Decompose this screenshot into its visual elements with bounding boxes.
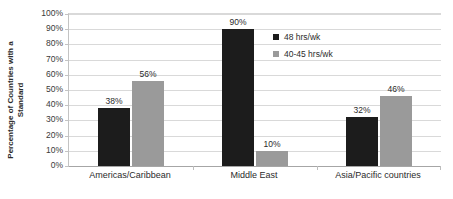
y-axis-tick-label: 20% [46,130,63,139]
bar-value-label: 32% [353,105,370,115]
legend-swatch-icon-dark [273,34,279,40]
y-axis-tickmark [65,90,69,91]
bar [380,96,412,166]
y-axis-tickmark [65,166,69,167]
y-axis-tick-label: 90% [46,24,63,33]
y-axis-tick-label: 60% [46,69,63,78]
y-axis-tick-label: 70% [46,54,63,63]
y-axis-tickmark [65,29,69,30]
legend-label-48-hrs: 48 hrs/wk [284,32,320,42]
bar [256,151,288,166]
bar-value-label: 38% [105,96,122,106]
bar-chart: Percentage of Countries with a Standard … [0,0,453,199]
bar [346,117,378,166]
y-axis-tick-label: 100% [41,9,63,18]
y-axis-tick-label: 40% [46,100,63,109]
bar [132,81,164,166]
gridline [69,14,441,15]
y-axis-title: Percentage of Countries with a Standard [0,0,32,199]
plot-area: 38%56%90%10%32%46% [68,13,441,166]
y-axis-tick-labels: 100%90%80%70%60%50%40%30%20%10%0% [30,13,66,165]
gridline [69,90,441,91]
bar [222,29,254,166]
x-axis-line [69,166,441,167]
x-axis-category-label: Asia/Pacific countries [335,170,421,181]
y-axis-tickmark [65,151,69,152]
bar-value-label: 90% [229,17,246,27]
y-axis-tickmark [65,75,69,76]
x-axis-category-labels: Americas/CaribbeanMiddle EastAsia/Pacifi… [68,170,440,190]
y-axis-tickmark [65,44,69,45]
legend-item-40-45-hrs[interactable]: 40-45 hrs/wk [273,45,385,62]
legend-label-40-45-hrs: 40-45 hrs/wk [284,49,333,59]
y-axis-tickmark [65,120,69,121]
y-axis-tick-label: 10% [46,145,63,154]
y-axis-tickmark [65,14,69,15]
x-axis-category-label: Americas/Caribbean [89,170,171,181]
y-axis-tick-label: 80% [46,39,63,48]
gridline [69,44,441,45]
y-axis-title-line-2: Standard [16,41,26,158]
y-axis-tickmark [65,136,69,137]
bar-value-label: 10% [263,139,280,149]
bar [98,108,130,166]
bar-value-label: 46% [387,84,404,94]
y-axis-tick-label: 0% [51,161,63,170]
x-axis-end-tick [440,166,441,170]
y-axis-tickmark [65,105,69,106]
gridline [69,60,441,61]
x-axis-category-label: Middle East [230,170,277,181]
legend-swatch-icon-light [273,51,279,57]
gridline [69,29,441,30]
y-axis-tickmark [65,60,69,61]
y-axis-tick-label: 30% [46,115,63,124]
legend: 48 hrs/wk 40-45 hrs/wk [273,28,385,62]
y-axis-title-line-1: Percentage of Countries with a [6,41,16,158]
legend-item-48-hrs[interactable]: 48 hrs/wk [273,28,385,45]
y-axis-tick-label: 50% [46,85,63,94]
bar-value-label: 56% [139,69,156,79]
gridline [69,75,441,76]
